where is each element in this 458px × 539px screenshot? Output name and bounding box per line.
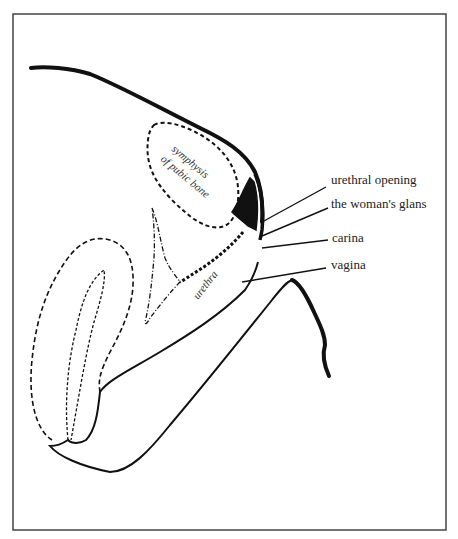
uterus-outer (31, 239, 133, 440)
label-vagina: vagina (331, 257, 366, 273)
bladder-outline (145, 208, 180, 324)
anatomy-drawing: symphysis of pubic bone urethra (0, 0, 458, 539)
svg-text:urethra: urethra (190, 268, 220, 301)
cervical-canal (67, 270, 105, 440)
label-glans: the woman's glans (331, 196, 427, 212)
frame-border (13, 14, 446, 530)
label-urethral-opening: urethral opening (331, 172, 417, 188)
diagram-canvas: symphysis of pubic bone urethra urethral… (0, 0, 458, 539)
posterior-fornix (50, 280, 292, 472)
urethra-label: urethra (190, 268, 220, 301)
leader-urethral-opening (262, 187, 326, 222)
leader-carina (262, 240, 328, 248)
label-carina: carina (332, 230, 364, 246)
perineum (292, 280, 329, 376)
posterior-wall (100, 262, 258, 392)
leader-glans (262, 208, 328, 236)
glans-shape (232, 178, 257, 230)
